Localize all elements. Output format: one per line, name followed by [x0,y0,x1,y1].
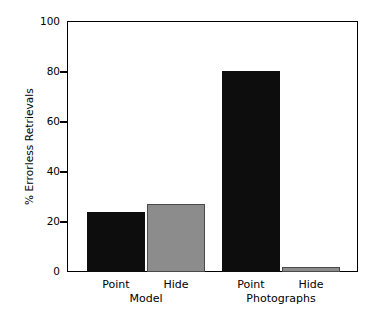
x-label-model-point: Point [86,278,146,291]
y-tick-label-40: 40 [34,166,60,177]
bar-photographs-point[interactable] [222,71,280,272]
bar-model-hide[interactable] [147,204,205,272]
y-tick-mark-80 [60,71,67,73]
x-label-photographs-point: Point [221,278,281,291]
y-tick-mark-60 [60,121,67,123]
y-tick-label-100: 100 [34,16,60,27]
y-tick-label-60: 60 [34,116,60,127]
y-tick-mark-40 [60,171,67,173]
y-tick-label-0: 0 [34,266,60,277]
x-axis-labels: Point Hide Model Point Hide Photographs [67,278,358,318]
y-tick-mark-20 [60,221,67,223]
y-tick-label-20: 20 [34,216,60,227]
bar-chart-figure: % Errorless Retrievals 100 80 60 40 20 0… [0,0,379,323]
bar-photographs-hide[interactable] [282,267,340,272]
bars-layer [67,21,358,272]
y-axis-tick-labels: 100 80 60 40 20 0 [34,0,60,323]
y-tick-label-80: 80 [34,66,60,77]
x-label-model-hide: Hide [146,278,206,291]
x-label-photographs-hide: Hide [281,278,341,291]
bar-model-point[interactable] [87,212,145,272]
x-group-label-photographs: Photographs [221,292,341,305]
x-group-label-model: Model [116,292,176,305]
